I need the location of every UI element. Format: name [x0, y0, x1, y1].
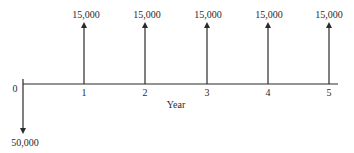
inflow-amount: 15,000	[133, 9, 161, 20]
period-3: 3 15,000	[194, 9, 222, 98]
year-tick-label: 2	[143, 87, 148, 98]
period-1: 1 15,000	[72, 9, 100, 98]
period-4: 4 15,000	[255, 9, 283, 98]
inflow-amount: 15,000	[255, 9, 283, 20]
year-tick-label: 5	[327, 87, 332, 98]
period-0: 0 50,000	[11, 79, 39, 148]
period-2: 2 15,000	[133, 9, 161, 98]
year-tick-label: 3	[205, 87, 210, 98]
axis-label: Year	[167, 99, 186, 110]
inflow-amount: 15,000	[194, 9, 222, 20]
cash-flow-diagram: 0 50,000 1 15,000 2 15,000 3 15,000 4 15…	[0, 0, 354, 153]
period-5: 5 15,000	[315, 9, 343, 98]
inflow-amount: 15,000	[315, 9, 343, 20]
year-tick-label: 1	[82, 87, 87, 98]
year-tick-label: 0	[13, 83, 18, 94]
year-tick-label: 4	[266, 87, 271, 98]
outflow-amount: 50,000	[11, 137, 39, 148]
inflow-amount: 15,000	[72, 9, 100, 20]
